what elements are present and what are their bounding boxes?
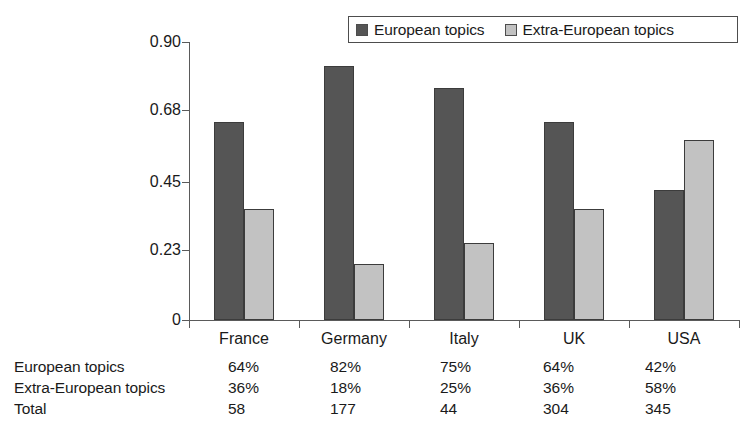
table-cell: 58 <box>228 400 245 418</box>
bar-germany-extra-european-topics <box>354 264 384 320</box>
table-cell: 36% <box>228 379 259 397</box>
table-cell: 42% <box>645 358 676 376</box>
table-row: Total 58 177 44 304 345 <box>0 400 745 422</box>
table-row: European topics 64% 82% 75% 64% 42% <box>0 358 745 380</box>
table-cell: 58% <box>645 379 676 397</box>
chart-plot-area <box>189 42 740 321</box>
bar-usa-extra-european-topics <box>684 140 714 320</box>
bar-france-extra-european-topics <box>244 209 274 321</box>
table-cell: 36% <box>543 379 574 397</box>
table-cell: 64% <box>543 358 574 376</box>
y-axis-tick-label: 0.23 <box>150 241 181 259</box>
x-axis-label-italy: Italy <box>449 330 478 348</box>
bar-uk-extra-european-topics <box>574 209 604 321</box>
x-axis-tick <box>629 321 630 328</box>
x-axis-label-uk: UK <box>563 330 585 348</box>
legend-swatch-icon-extra-european-topics <box>505 24 517 36</box>
x-axis-line <box>189 320 740 321</box>
y-axis-tick <box>182 182 189 183</box>
bar-uk-european-topics <box>544 122 574 320</box>
table-cell: 75% <box>440 358 471 376</box>
y-axis-tick-label: 0.45 <box>150 173 181 191</box>
legend-entry-extra-european-topics: Extra-European topics <box>505 21 674 39</box>
table-cell: 64% <box>228 358 259 376</box>
table-cell: 25% <box>440 379 471 397</box>
table-cell: 304 <box>543 400 569 418</box>
legend-label-european-topics: European topics <box>374 21 485 39</box>
table-cell: 345 <box>645 400 671 418</box>
x-axis-tick <box>519 321 520 328</box>
bar-france-european-topics <box>214 122 244 320</box>
table-row-label: European topics <box>14 358 125 376</box>
chart-legend: European topics Extra-European topics <box>348 16 738 43</box>
bar-italy-european-topics <box>434 88 464 320</box>
table-cell: 18% <box>330 379 361 397</box>
table-cell: 44 <box>440 400 457 418</box>
table-row-label: Total <box>14 400 46 418</box>
x-axis-label-usa: USA <box>668 330 701 348</box>
x-axis-tick <box>299 321 300 328</box>
table-row: Extra-European topics 36% 18% 25% 36% 58… <box>0 379 745 401</box>
y-axis-tick <box>182 42 189 43</box>
y-axis-line <box>189 42 190 321</box>
y-axis-tick-label: 0.68 <box>150 101 181 119</box>
bar-italy-extra-european-topics <box>464 243 494 320</box>
table-cell: 82% <box>330 358 361 376</box>
y-axis-tick <box>182 320 189 321</box>
chart-data-table: European topics 64% 82% 75% 64% 42% Extr… <box>0 358 745 428</box>
bar-germany-european-topics <box>324 66 354 320</box>
legend-entry-european-topics: European topics <box>356 21 485 39</box>
x-axis-label-germany: Germany <box>321 330 387 348</box>
y-axis-tick <box>182 250 189 251</box>
bar-usa-european-topics <box>654 190 684 320</box>
table-row-label: Extra-European topics <box>14 379 165 397</box>
y-axis-tick-label: 0.90 <box>150 33 181 51</box>
x-axis-tick <box>409 321 410 328</box>
legend-label-extra-european-topics: Extra-European topics <box>523 21 674 39</box>
x-axis-category-labels: France Germany Italy UK USA <box>189 330 740 352</box>
legend-swatch-icon-european-topics <box>356 24 368 36</box>
table-cell: 177 <box>330 400 356 418</box>
x-axis-tick <box>739 321 740 328</box>
y-axis-tick-label: 0 <box>172 311 181 329</box>
x-axis-label-france: France <box>219 330 269 348</box>
y-axis-tick-labels: 0.90 0.68 0.45 0.23 0 <box>133 42 181 321</box>
y-axis-tick <box>182 110 189 111</box>
x-axis-tick <box>189 321 190 328</box>
